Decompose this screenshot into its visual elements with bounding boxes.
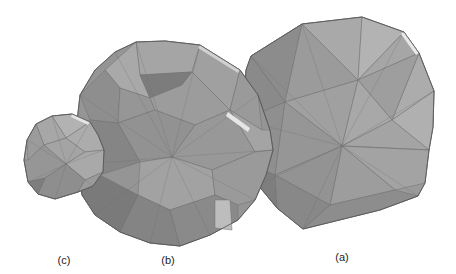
label-a: (a) xyxy=(335,251,348,263)
label-b: (b) xyxy=(161,254,174,266)
polyhedron-face xyxy=(215,200,232,230)
polyhedra-figure xyxy=(0,0,456,274)
polyhedron-a xyxy=(243,17,434,229)
polyhedron-c xyxy=(24,114,104,199)
polyhedron-face xyxy=(136,41,200,75)
polyhedron-b xyxy=(76,41,273,246)
label-c: (c) xyxy=(58,254,71,266)
